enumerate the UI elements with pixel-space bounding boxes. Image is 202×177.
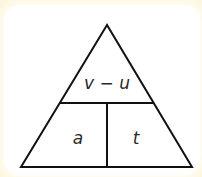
formula-triangle: v − u a t [0, 0, 202, 177]
bottom-left-label: a [73, 128, 83, 148]
bottom-right-label: t [133, 128, 141, 148]
top-label: v − u [84, 73, 130, 93]
